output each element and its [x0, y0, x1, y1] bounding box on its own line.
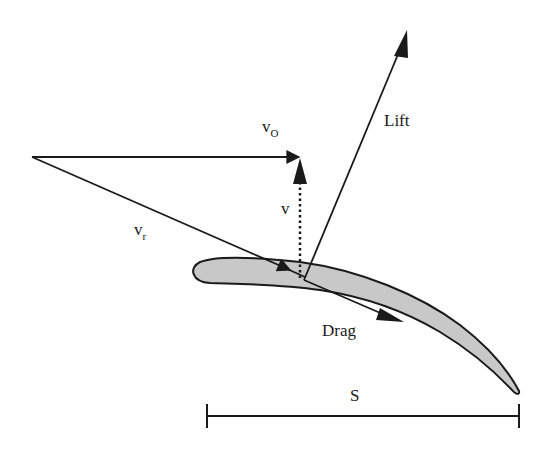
blade-airfoil: [193, 258, 519, 394]
label-drag: Drag: [322, 321, 356, 340]
label-lift: Lift: [384, 111, 410, 130]
label-v-o: vO: [262, 117, 279, 139]
vector-lift: [304, 30, 408, 280]
label-v: v: [281, 199, 290, 218]
label-span-s: S: [350, 386, 359, 405]
blade-force-diagram: vO vr v Lift Drag S: [0, 0, 547, 449]
span-dimension: [207, 404, 519, 428]
vector-v: [293, 158, 307, 278]
vector-v-r: [32, 157, 305, 277]
label-v-r: vr: [134, 220, 147, 242]
